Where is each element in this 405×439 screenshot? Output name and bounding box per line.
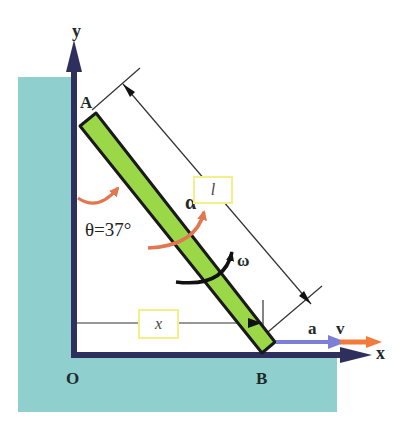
- x-axis-label: x: [376, 344, 385, 362]
- point-b-label: B: [256, 370, 267, 387]
- theta-arc-icon: [78, 188, 118, 203]
- x-value-box: x: [138, 309, 179, 339]
- length-value: l: [211, 181, 215, 199]
- omega-label: ω: [237, 252, 249, 269]
- velocity-label: v: [336, 320, 345, 337]
- point-a-label: A: [80, 94, 92, 111]
- y-axis-label: y: [72, 22, 81, 40]
- origin-label: O: [66, 370, 79, 387]
- x-value: x: [155, 315, 162, 333]
- rod-sliding-diagram: [0, 0, 405, 439]
- length-value-box: l: [193, 176, 233, 204]
- theta-label: θ=37°: [85, 220, 131, 239]
- acceleration-label: a: [308, 320, 317, 337]
